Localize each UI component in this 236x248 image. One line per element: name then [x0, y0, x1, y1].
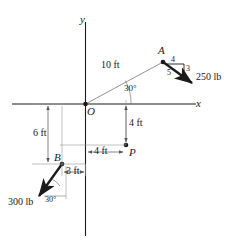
- force-diagram-figure: y x O A B P 250 lb 4 3 5 300 lb 30° 10 f…: [0, 0, 236, 248]
- point-p-label: P: [129, 147, 136, 158]
- point-b-label: B: [54, 152, 61, 163]
- slope-horizontal-label: 4: [171, 56, 175, 64]
- x-axis-label: x: [196, 98, 201, 109]
- slope-vertical-label: 3: [186, 65, 190, 73]
- slope-hypotenuse-label: 5: [167, 69, 171, 77]
- y-axis-label: y: [80, 14, 85, 25]
- p-horizontal-dim-label: 4 ft: [94, 146, 108, 156]
- p-vertical-dim-label: 4 ft: [129, 118, 143, 128]
- origin-label: O: [87, 106, 95, 117]
- diagram-canvas: [0, 0, 236, 248]
- force-b-vector: [39, 164, 62, 196]
- point-a-label: A: [158, 45, 165, 56]
- b-vertical-dim-label: 6 ft: [33, 128, 47, 138]
- force-a-magnitude-label: 250 lb: [196, 72, 221, 82]
- oa-angle-label: 30°: [124, 84, 137, 93]
- force-b-angle-arc: [52, 179, 60, 186]
- b-horizontal-dim-label: 3 ft: [66, 166, 80, 176]
- force-b-magnitude-label: 300 lb: [8, 197, 33, 207]
- oa-length-label: 10 ft: [101, 60, 120, 70]
- force-b-angle-label: 30°: [45, 196, 56, 204]
